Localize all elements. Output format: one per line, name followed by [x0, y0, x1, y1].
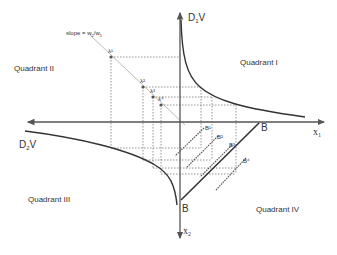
d1v-curve	[181, 20, 305, 117]
lambda-point-3	[151, 95, 154, 98]
shifted-budget-label-4: B⁴	[243, 158, 250, 164]
four-quadrant-diagram: λ¹ λ² λ³ λ⁴ B¹ B² B³ B⁴ B B D1V D2V x1 x…	[0, 0, 337, 255]
slope-line	[90, 35, 185, 125]
x2-label: x2	[183, 225, 191, 237]
quadrant-2-label: Quadrant II	[14, 64, 54, 73]
d1v-label: D1V	[188, 12, 206, 24]
quadrant-4-label: Quadrant IV	[256, 205, 300, 214]
lambda-label-4: λ⁴	[158, 96, 164, 102]
lambda-label-2: λ²	[140, 78, 145, 84]
d2v-label: D2V	[19, 139, 37, 151]
shifted-budget-lines	[175, 128, 246, 190]
slope-label: slope = w2/w1	[66, 30, 103, 38]
budget-label-top: B	[261, 122, 268, 133]
lambda-label-1: λ¹	[108, 48, 113, 54]
shifted-budget-label-1: B¹	[205, 125, 211, 131]
shifted-budget-label-3: B³	[229, 142, 235, 148]
quadrant-3-label: Quadrant III	[28, 195, 70, 204]
quadrant-1-label: Quadrant I	[240, 58, 278, 67]
lambda-points	[109, 55, 162, 106]
dotted-grid	[111, 57, 236, 174]
lambda-point-2	[141, 85, 144, 88]
shifted-budget-line-3	[200, 145, 232, 177]
x1-label: x1	[313, 126, 321, 138]
lambda-label-3: λ³	[150, 88, 155, 94]
budget-label-bottom: B	[182, 203, 189, 214]
lambda-point-1	[109, 55, 112, 58]
lambda-point-4	[159, 103, 162, 106]
shifted-budget-label-2: B²	[217, 134, 223, 140]
